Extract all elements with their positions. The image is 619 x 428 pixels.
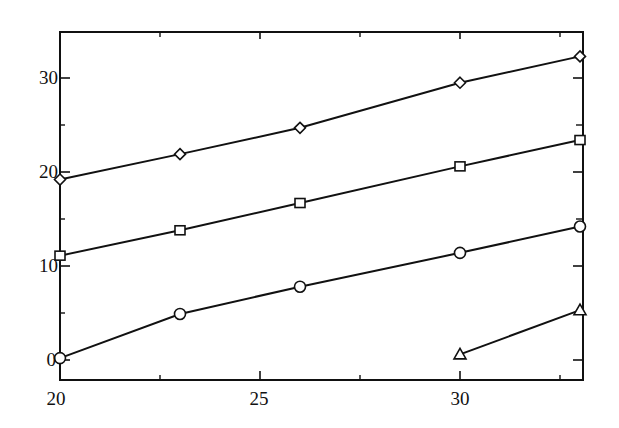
y-tick-label-0: 0: [47, 349, 57, 370]
square-marker-icon: [295, 199, 305, 208]
square-marker-icon: [575, 136, 585, 145]
x-tick-label-20: 20: [47, 388, 66, 409]
series-line-triangle: [460, 310, 580, 354]
axis-ticks: [60, 32, 583, 380]
tick-labels: 20 25 30 0 10 20 30: [39, 67, 470, 409]
series-line-diamond: [60, 56, 580, 179]
square-marker-icon: [175, 226, 185, 235]
y-tick-label-20: 20: [39, 161, 58, 182]
circle-marker-icon: [295, 281, 306, 292]
diamond-marker-icon: [455, 77, 466, 88]
circle-marker-icon: [575, 221, 586, 232]
circle-marker-icon: [55, 353, 66, 364]
circle-marker-icon: [175, 308, 186, 319]
plot-frame: [60, 32, 583, 380]
y-tick-label-30: 30: [39, 67, 58, 88]
diamond-marker-icon: [175, 149, 186, 160]
x-tick-label-25: 25: [250, 388, 269, 409]
data-lines: [60, 56, 580, 358]
data-markers: [55, 51, 587, 364]
circle-marker-icon: [455, 247, 466, 258]
square-marker-icon: [455, 162, 465, 171]
triangle-marker-icon: [574, 304, 586, 315]
y-tick-label-10: 10: [39, 255, 58, 276]
diamond-marker-icon: [295, 122, 306, 133]
line-chart: 20 25 30 0 10 20 30: [0, 0, 619, 428]
x-tick-label-30: 30: [451, 388, 470, 409]
series-line-square: [60, 140, 580, 256]
